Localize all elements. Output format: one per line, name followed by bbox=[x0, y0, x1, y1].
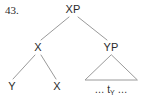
leaf-x: X bbox=[53, 80, 61, 92]
node-yp: YP bbox=[103, 41, 118, 53]
yp-triangle bbox=[85, 55, 137, 80]
branch-left-child-to-leaf-y bbox=[13, 55, 35, 79]
node-xp: XP bbox=[65, 3, 80, 15]
syntax-tree-figure: 43. XP X YP Y X … tY … bbox=[0, 0, 145, 98]
trace-suffix-ellipsis: … bbox=[118, 84, 128, 95]
trace-subscript: Y bbox=[110, 89, 115, 96]
leaf-y: Y bbox=[8, 80, 16, 92]
trace-label: … tY … bbox=[94, 84, 127, 95]
branch-root-to-left-child bbox=[41, 17, 69, 40]
branch-left-child-to-leaf-x bbox=[41, 55, 56, 79]
node-x-left: X bbox=[34, 41, 42, 53]
branch-root-to-right-child bbox=[78, 17, 107, 40]
trace-prefix-ellipsis: … bbox=[94, 84, 104, 95]
